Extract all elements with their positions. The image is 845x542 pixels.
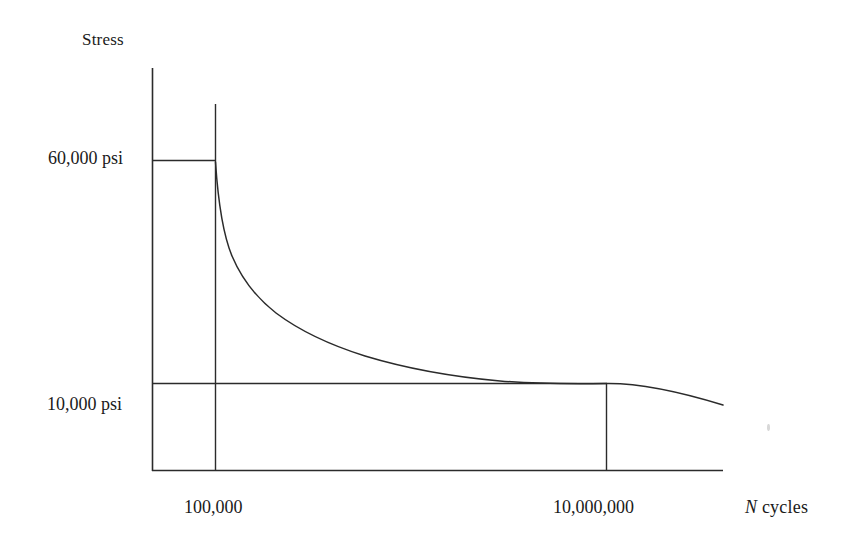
x-axis-title-symbol: N (745, 497, 757, 517)
plot-canvas (0, 0, 845, 542)
fatigue-sn-curve-figure: Stress N cycles 60,000 psi 10,000 psi 10… (0, 0, 845, 542)
x-axis-title-text: cycles (757, 497, 808, 517)
y-value-label-10000psi: 10,000 psi (47, 394, 122, 415)
y-axis-title: Stress (82, 30, 124, 50)
y-value-label-60000psi: 60,000 psi (48, 148, 123, 169)
x-tick-label-10000000: 10,000,000 (553, 497, 634, 518)
x-axis-title: N cycles (745, 497, 808, 518)
sn-curve-path (216, 162, 724, 405)
scan-artifact-speck (767, 424, 770, 431)
x-tick-label-100000: 100,000 (184, 497, 243, 518)
